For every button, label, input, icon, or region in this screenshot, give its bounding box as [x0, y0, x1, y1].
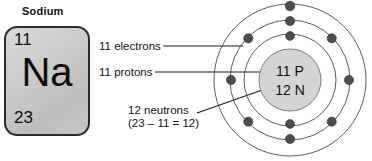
electron	[327, 117, 336, 126]
electron	[244, 117, 253, 126]
nucleus-protons-label: 11 P	[276, 63, 304, 79]
electron	[344, 75, 353, 84]
electron	[285, 134, 294, 143]
nucleus	[259, 49, 321, 111]
electrons-shell-3	[285, 1, 295, 11]
atom-diagram: 11 P 12 N	[0, 0, 372, 161]
electron	[286, 32, 295, 41]
electron	[285, 1, 295, 11]
electron	[244, 34, 253, 43]
electron	[327, 34, 336, 43]
leader-lines	[155, 46, 265, 113]
electron	[285, 16, 294, 25]
diagram-canvas: Sodium 11 Na 23 11 electrons 11 protons …	[0, 0, 372, 161]
nucleus-neutrons-label: 12 N	[275, 82, 305, 98]
electron	[286, 120, 295, 129]
electron	[226, 75, 235, 84]
